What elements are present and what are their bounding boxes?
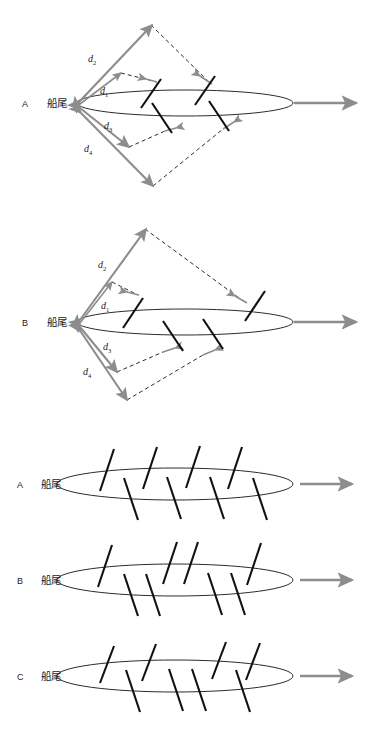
gear-tick — [246, 643, 260, 680]
panel-bottom-b: B 船尾 — [17, 542, 352, 616]
gear-tick — [163, 321, 183, 351]
gear-tick — [167, 477, 181, 519]
hull-outline-top-b — [77, 309, 293, 335]
gear-tick — [146, 574, 160, 616]
gear-tick — [100, 646, 114, 683]
distance-label-d1-top-a: d1 — [100, 85, 108, 98]
dashed-link-d4-top-a — [153, 129, 223, 186]
gear-tick — [208, 573, 222, 615]
distance-label-d1-top-b: d1 — [101, 300, 109, 313]
panel-bottom-b-letter: B — [17, 576, 23, 586]
arrowhead-d3-target-top-b — [163, 348, 175, 352]
panel-bottom-a-letter: A — [17, 480, 23, 490]
gear-tick — [186, 446, 200, 488]
panel-bottom-c: C 船尾 — [17, 642, 352, 712]
panel-top-b-letter: B — [22, 318, 28, 328]
panel-top-a: A 船尾 — [22, 25, 356, 186]
gear-tick — [210, 477, 224, 519]
gear-tick — [247, 543, 261, 585]
distance-label-d2-top-b: d2 — [98, 259, 106, 272]
panel-top-a-stern-label: 船尾 — [47, 97, 67, 109]
dashed-link-d4-top-b — [127, 355, 203, 400]
dashed-link-d2-top-a — [151, 25, 211, 84]
gear-tick — [253, 478, 267, 520]
hull-outline-bottom-b — [57, 564, 293, 596]
vector-d1-top-b — [80, 282, 112, 323]
vector-d2-top-b — [80, 229, 146, 320]
panel-bottom-c-stern-label: 船尾 — [41, 670, 61, 682]
gear-tick — [152, 103, 172, 133]
distance-label-d4-top-a: d4 — [84, 143, 93, 156]
gear-tick — [245, 291, 265, 321]
arrowhead-d2-target-top-b — [235, 296, 247, 303]
hull-outline-top-a — [77, 90, 293, 116]
dashed-link-d3-top-b — [117, 352, 163, 372]
panel-bottom-c-letter: C — [17, 672, 24, 682]
gear-tick — [163, 542, 177, 584]
panel-bottom-a-stern-label: 船尾 — [41, 478, 61, 490]
arrowhead-d1-target-top-a — [146, 79, 157, 82]
diagram-svg: A 船尾 — [0, 0, 375, 732]
distance-label-d3-top-a: d3 — [104, 120, 112, 133]
panel-top-b: B 船尾 d2 d1 — [22, 229, 356, 400]
panel-bottom-a: A 船尾 — [17, 446, 352, 520]
gear-tick — [169, 669, 183, 711]
gear-tick — [228, 447, 242, 489]
gear-tick — [184, 542, 198, 584]
panel-bottom-b-stern-label: 船尾 — [41, 574, 61, 586]
panel-top-a-letter: A — [22, 99, 28, 109]
gear-tick — [123, 298, 143, 328]
figure-canvas: A 船尾 — [0, 0, 375, 732]
gear-tick — [98, 545, 112, 587]
dashed-link-d3-top-a — [129, 131, 165, 147]
distance-label-d4-top-b: d4 — [83, 366, 92, 379]
gear-tick — [141, 79, 161, 108]
panel-top-b-stern-label: 船尾 — [47, 316, 67, 328]
arrowhead-d4-target-top-b — [203, 350, 215, 355]
distance-label-d3-top-b: d3 — [103, 341, 111, 354]
distance-label-d2-top-a: d2 — [88, 53, 96, 66]
gear-tick — [192, 669, 206, 711]
gear-tick — [142, 644, 156, 681]
hull-outline-bottom-a — [57, 468, 293, 500]
dashed-link-d2-top-b — [145, 229, 246, 303]
